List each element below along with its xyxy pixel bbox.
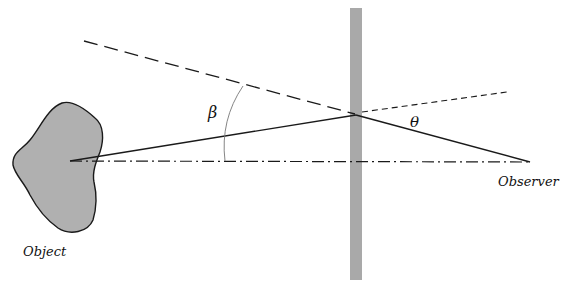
theta-label: θ xyxy=(410,113,419,131)
apparent-ray-continuation xyxy=(362,92,507,112)
object-label: Object xyxy=(23,244,67,259)
beta-label: β xyxy=(207,103,217,122)
beta-angle-arc xyxy=(224,86,243,161)
glass-plate xyxy=(350,8,362,280)
refraction-diagram: β θ Observer Object xyxy=(0,0,565,286)
apparent-ray-incoming xyxy=(84,41,355,114)
observer-label: Observer xyxy=(498,174,560,189)
object-shape xyxy=(13,102,103,232)
actual-ray-to-observer xyxy=(356,115,530,162)
reference-axis xyxy=(70,161,530,162)
